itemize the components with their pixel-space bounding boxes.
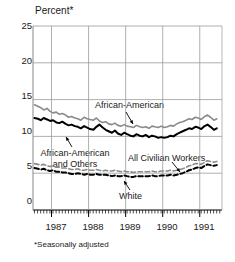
plot-surface xyxy=(0,0,235,262)
unemployment-rate-chart: Percent* 25 20 15 10 5 0 1987 1988 1989 … xyxy=(0,0,235,262)
